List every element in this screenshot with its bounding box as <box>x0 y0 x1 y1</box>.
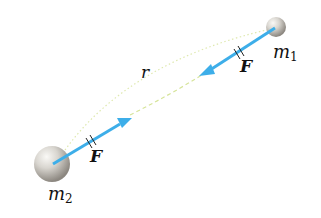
mass-m2-label: m2 <box>48 183 73 206</box>
gravitation-diagram: m1 m2 F F r <box>0 0 321 218</box>
distance-label: r <box>141 62 150 82</box>
force-arrow-on-m1 <box>199 28 275 76</box>
mass-m2-sphere <box>34 146 70 182</box>
force-label-m1: F <box>239 56 254 76</box>
mass-m1-label: m1 <box>273 41 298 64</box>
mass-m1-sphere <box>266 17 286 37</box>
force-label-m2: F <box>89 146 104 166</box>
distance-arc <box>65 28 275 150</box>
